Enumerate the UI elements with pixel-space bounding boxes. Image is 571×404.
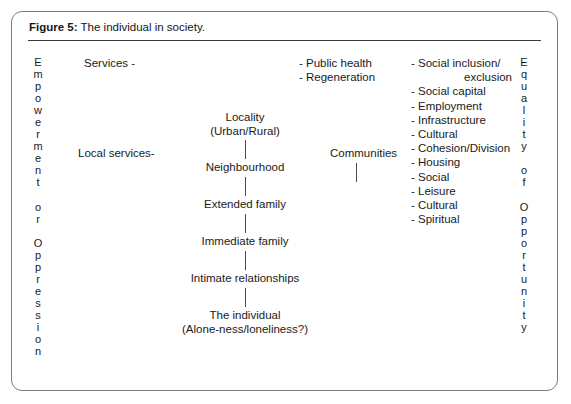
themes-list-item: - Cultural [411,127,512,141]
hierarchy-connector [245,251,246,270]
vertical-letter: m [30,140,46,152]
vertical-letter: t [516,261,532,273]
hierarchy-node-extended-family: Extended family [185,197,305,211]
hierarchy-node-line2: (Alone-ness/loneliness?) [170,322,320,336]
vertical-letter: t [516,128,532,140]
hierarchy-node-locality: Locality (Urban/Rural) [185,110,305,138]
vertical-letter: O [516,201,532,213]
policy-list-item: - Public health [299,56,375,70]
vertical-letter: E [30,56,46,68]
vertical-letter: p [516,225,532,237]
hierarchy-node-line2: (Urban/Rural) [185,124,305,138]
themes-list-item: - Cohesion/Division [411,141,512,155]
vertical-letter-gap [30,225,46,237]
vertical-letter: E [516,56,532,68]
themes-list-item: exclusion [411,70,512,84]
hierarchy-node-immediate-family: Immediate family [185,234,305,248]
vertical-letter: t [516,309,532,321]
vertical-letter: a [516,92,532,104]
policy-list: - Public health - Regeneration [299,56,375,84]
hierarchy-node-the-individual: The individual (Alone-ness/loneliness?) [170,308,320,336]
hierarchy-connector [245,140,246,159]
hierarchy-connector [245,288,246,307]
vertical-letter: y [516,321,532,333]
vertical-letter: s [30,309,46,321]
hierarchy-node-line1: Extended family [185,197,305,211]
themes-list-item: - Leisure [411,184,512,198]
hierarchy-connector [245,214,246,233]
vertical-letter: i [516,116,532,128]
vertical-letter: u [516,273,532,285]
hierarchy-node-line1: Intimate relationships [175,271,315,285]
vertical-letter: p [30,80,46,92]
vertical-letter: w [30,104,46,116]
vertical-letter: n [516,285,532,297]
vertical-letter: o [30,333,46,345]
policy-list-item: - Regeneration [299,70,375,84]
themes-list-item: - Social [411,170,512,184]
figure-caption: Figure 5: The individual in society. [29,20,205,34]
vertical-letter: o [30,92,46,104]
vertical-letter: e [30,285,46,297]
hierarchy-node-intimate-relationships: Intimate relationships [175,271,315,285]
vertical-letter: r [30,273,46,285]
figure-caption-label: Figure 5: [29,21,78,33]
vertical-letter-gap [516,152,532,164]
vertical-letter: r [30,213,46,225]
hierarchy-node-line1: Immediate family [185,234,305,248]
vertical-letter: p [30,261,46,273]
figure-caption-text: The individual in society. [81,21,205,33]
themes-list-item: - Infrastructure [411,113,512,127]
vertical-letter: p [30,249,46,261]
vertical-letter-gap [516,189,532,201]
vertical-letter: i [30,321,46,333]
vertical-letter: o [30,201,46,213]
hierarchy-node-line1: The individual [170,308,320,322]
vertical-letter: t [30,176,46,188]
vertical-letter: f [516,176,532,188]
vertical-letter: s [30,297,46,309]
communities-connector [356,163,357,182]
vertical-letter: p [516,213,532,225]
vertical-letter-gap [30,189,46,201]
vertical-letter: l [516,104,532,116]
themes-list: - Social inclusion/ exclusion - Social c… [411,56,512,226]
vertical-letter: r [30,128,46,140]
vertical-letter: e [30,116,46,128]
figure-root: Figure 5: The individual in society. Emp… [0,0,571,404]
vertical-letter: n [30,164,46,176]
vertical-letter: u [516,80,532,92]
caption-divider [28,40,541,41]
themes-list-item: - Social capital [411,84,512,98]
themes-list-item: - Cultural [411,198,512,212]
hierarchy-connector [245,177,246,196]
hierarchy-node-line1: Locality [185,110,305,124]
themes-list-item: - Employment [411,99,512,113]
vertical-letter: O [30,237,46,249]
themes-list-item: - Social inclusion/ [411,56,512,70]
vertical-letter: o [516,164,532,176]
hierarchy-node-neighbourhood: Neighbourhood [185,160,305,174]
label-local-services: Local services- [78,146,155,160]
vertical-letter: y [516,140,532,152]
themes-list-item: - Housing [411,155,512,169]
vertical-letter: i [516,297,532,309]
vertical-letter: o [516,237,532,249]
label-communities: Communities [330,146,397,160]
themes-list-item: - Spiritual [411,212,512,226]
vertical-letter: q [516,68,532,80]
vertical-letter: e [30,152,46,164]
vertical-letter: r [516,249,532,261]
vertical-letter: m [30,68,46,80]
right-vertical-axis-label: EqualityofOpportunity [516,56,532,333]
left-vertical-axis-label: EmpowermentorOppression [30,56,46,357]
vertical-letter: n [30,345,46,357]
hierarchy-node-line1: Neighbourhood [185,160,305,174]
label-services: Services - [84,56,135,70]
